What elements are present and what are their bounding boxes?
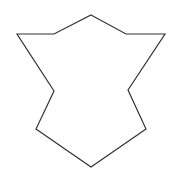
diagram-canvas xyxy=(0,0,175,184)
ten-sided-polygon xyxy=(17,15,165,167)
shape-figure xyxy=(0,0,175,184)
